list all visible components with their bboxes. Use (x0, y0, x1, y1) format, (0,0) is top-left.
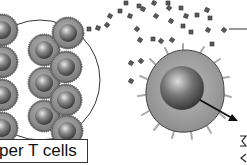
helper-t-cell-cluster (0, 14, 84, 147)
helper-t-cells-label: per T cells (0, 139, 88, 163)
label-text: per T cells (0, 141, 77, 160)
partial-symbols (240, 136, 246, 162)
large-cell (138, 44, 231, 139)
